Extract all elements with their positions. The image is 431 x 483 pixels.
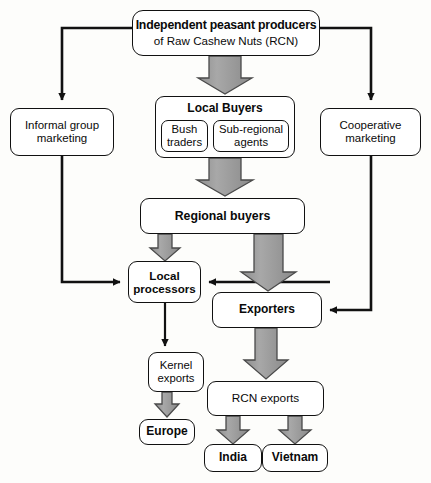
sub-regional-agents-line-1: Sub-regional bbox=[219, 123, 283, 136]
node-kernel-exports[interactable]: Kernel exports bbox=[148, 352, 204, 392]
rcn-exports-label: RCN exports bbox=[232, 392, 300, 406]
node-rcn-exports[interactable]: RCN exports bbox=[207, 381, 324, 416]
bush-traders-line-2: traders bbox=[167, 136, 202, 149]
india-label: India bbox=[219, 451, 247, 465]
informal-line-2: marketing bbox=[37, 132, 88, 145]
edge-exporters-to-rcn bbox=[244, 328, 288, 379]
kernel-exports-line-2: exports bbox=[157, 372, 194, 385]
flowchart-canvas: Independent peasant producers of Raw Cas… bbox=[0, 0, 431, 483]
node-informal-group-marketing[interactable]: Informal group marketing bbox=[10, 108, 114, 156]
producers-line-1: Independent peasant producers bbox=[136, 18, 317, 32]
edge-producers-to-informal bbox=[62, 28, 132, 100]
edge-localbuyers-to-regional bbox=[197, 158, 253, 196]
europe-label: Europe bbox=[146, 425, 187, 439]
node-bush-traders[interactable]: Bush traders bbox=[161, 120, 208, 152]
node-local-buyers[interactable]: Local Buyers Bush traders Sub-regional a… bbox=[155, 96, 295, 158]
local-buyers-title: Local Buyers bbox=[187, 102, 262, 116]
node-independent-peasant-producers[interactable]: Independent peasant producers of Raw Cas… bbox=[132, 10, 320, 56]
producers-line-2: of Raw Cashew Nuts (RCN) bbox=[154, 34, 298, 47]
node-india[interactable]: India bbox=[204, 444, 262, 472]
kernel-exports-line-1: Kernel bbox=[160, 359, 193, 372]
edge-informal-to-processors bbox=[62, 156, 120, 282]
informal-line-1: Informal group bbox=[25, 119, 99, 132]
node-regional-buyers[interactable]: Regional buyers bbox=[140, 198, 305, 234]
edge-rcn-to-india bbox=[217, 416, 249, 444]
node-vietnam[interactable]: Vietnam bbox=[262, 444, 328, 472]
node-local-processors[interactable]: Local processors bbox=[128, 261, 201, 303]
edge-rcn-to-vietnam bbox=[279, 416, 311, 444]
edge-producers-to-localbuyers bbox=[198, 56, 252, 94]
edge-kernel-to-europe bbox=[155, 392, 179, 417]
node-sub-regional-agents[interactable]: Sub-regional agents bbox=[213, 120, 289, 152]
bush-traders-line-1: Bush bbox=[167, 123, 202, 136]
cooperative-line-1: Cooperative bbox=[339, 119, 401, 132]
node-europe[interactable]: Europe bbox=[139, 419, 195, 445]
regional-buyers-label: Regional buyers bbox=[175, 209, 271, 223]
sub-regional-agents-line-2: agents bbox=[219, 136, 283, 149]
exporters-label: Exporters bbox=[239, 303, 295, 317]
local-buyers-children: Bush traders Sub-regional agents bbox=[161, 120, 289, 152]
edge-regional-to-processors bbox=[150, 234, 180, 261]
local-processors-line-1: Local bbox=[149, 269, 179, 282]
edge-cooperative-to-exporters bbox=[330, 156, 371, 310]
cooperative-line-2: marketing bbox=[345, 132, 396, 145]
local-processors-line-2: processors bbox=[133, 282, 196, 295]
vietnam-label: Vietnam bbox=[272, 451, 318, 465]
node-cooperative-marketing[interactable]: Cooperative marketing bbox=[320, 108, 421, 156]
edge-producers-to-cooperative bbox=[320, 28, 371, 100]
node-exporters[interactable]: Exporters bbox=[212, 292, 322, 328]
